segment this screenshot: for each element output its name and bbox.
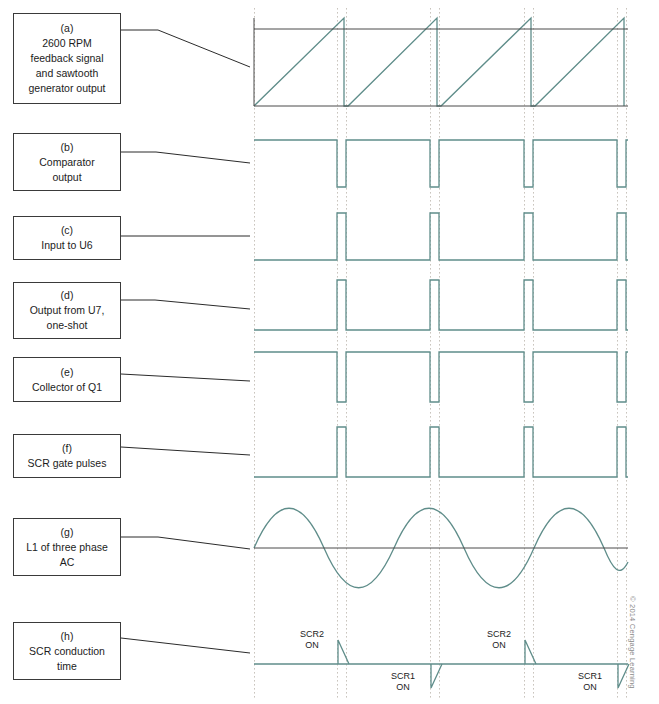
annotation-scr1-on-1: SCR1 ON	[383, 671, 423, 693]
waveform-e-collector-q1	[254, 352, 628, 402]
leader-line-a	[121, 30, 250, 67]
waveform-b-trace	[254, 140, 628, 187]
waveform-b-comparator	[254, 140, 628, 187]
annotation-scr2-on-2: SCR2 ON	[479, 629, 519, 651]
leader-line-d	[121, 300, 250, 309]
waveform-d-trace	[254, 280, 628, 330]
waveform-c-trace	[254, 213, 628, 260]
copyright-notice: © 2014 Cengage Learning	[628, 596, 637, 696]
leader-line-e	[121, 374, 250, 381]
leader-line-g	[121, 537, 250, 549]
waveform-f-gate-pulses	[254, 427, 628, 477]
waveform-d-one-shot	[254, 280, 628, 330]
annotation-scr2-on-1: SCR2 ON	[292, 629, 332, 651]
leader-line-f	[121, 447, 250, 455]
waveform-a-reference	[254, 18, 628, 106]
conduction-spike-scr2-2	[525, 640, 536, 664]
leader-line-b	[121, 152, 250, 163]
leader-line-h	[121, 638, 250, 653]
waveform-c-input-u6	[254, 213, 628, 260]
conduction-spike-scr2-1	[338, 640, 349, 664]
annotation-scr1-on-2: SCR1 ON	[570, 671, 610, 693]
waveform-e-trace	[254, 352, 628, 402]
waveform-canvas	[0, 0, 659, 704]
waveform-f-trace	[254, 427, 628, 477]
timing-gridlines	[255, 8, 627, 700]
leader-lines	[121, 30, 250, 653]
waveform-diagram: (a) 2600 RPM feedback signal and sawtoot…	[0, 0, 659, 704]
conduction-spike-scr1-1	[431, 664, 442, 688]
